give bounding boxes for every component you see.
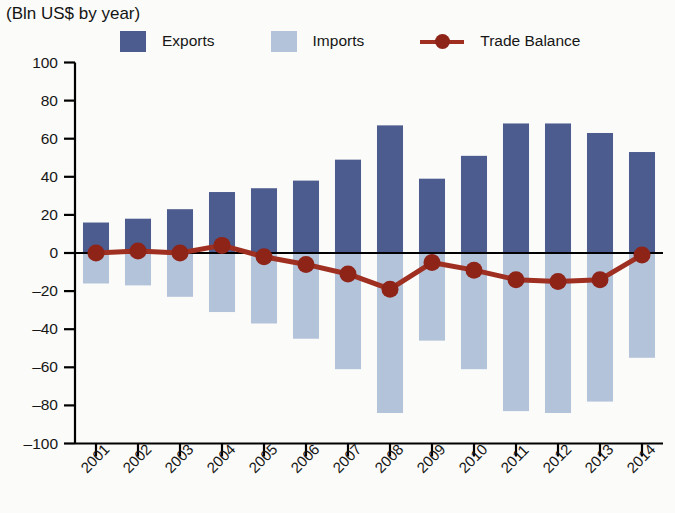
bar-exports xyxy=(545,123,571,253)
y-axis-tick-label: 60 xyxy=(41,130,58,148)
y-axis-tick-label: –100 xyxy=(24,435,58,453)
y-axis-tick-label: 100 xyxy=(32,54,58,72)
chart-plot-area xyxy=(0,0,675,513)
chart-page: Exports, Imports and Trade Balance (Bln … xyxy=(0,0,675,513)
trade-balance-point xyxy=(88,245,105,262)
trade-balance-point xyxy=(550,273,567,290)
trade-balance-point xyxy=(382,281,399,298)
bar-exports xyxy=(377,125,403,253)
trade-balance-point xyxy=(592,271,609,288)
y-axis-tick-label: –80 xyxy=(32,396,58,414)
bar-imports xyxy=(629,253,655,358)
bar-exports xyxy=(503,123,529,253)
bar-imports xyxy=(377,253,403,413)
y-axis-tick-label: 40 xyxy=(41,168,58,186)
y-axis-tick-label: –60 xyxy=(32,358,58,376)
y-axis-tick-label: 80 xyxy=(41,92,58,110)
trade-balance-point xyxy=(634,246,651,263)
bar-exports xyxy=(419,179,445,253)
y-axis-tick-label: –40 xyxy=(32,320,58,338)
bar-exports xyxy=(335,160,361,253)
bar-imports xyxy=(209,253,235,312)
trade-balance-point xyxy=(172,245,189,262)
y-axis-tick-label: –20 xyxy=(32,282,58,300)
trade-balance-point xyxy=(298,256,315,273)
bar-exports xyxy=(461,156,487,253)
y-axis-tick-label: 20 xyxy=(41,206,58,224)
bar-exports xyxy=(251,188,277,253)
trade-balance-point xyxy=(256,248,273,265)
trade-balance-point xyxy=(508,271,525,288)
trade-balance-point xyxy=(340,265,357,282)
y-axis-tick-label: 0 xyxy=(49,244,58,262)
trade-balance-point xyxy=(466,262,483,279)
trade-balance-point xyxy=(214,237,231,254)
trade-balance-point xyxy=(130,243,147,260)
chart-svg xyxy=(0,0,675,513)
bar-exports xyxy=(629,152,655,253)
bar-exports xyxy=(293,181,319,253)
bar-exports xyxy=(587,133,613,253)
trade-balance-point xyxy=(424,254,441,271)
